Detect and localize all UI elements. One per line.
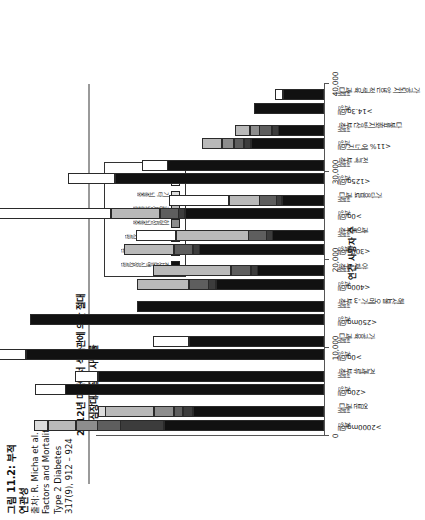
bar[interactable] — [96, 265, 324, 276]
bar[interactable] — [96, 89, 324, 100]
figure-source-line-2: Factors and Mortality — [41, 214, 52, 514]
bar-sub-label: 과잉 — [338, 349, 350, 358]
bar-segment — [48, 420, 76, 431]
bar-segment — [120, 420, 164, 431]
bar-segment — [176, 230, 249, 241]
bar[interactable] — [96, 314, 324, 325]
bar-sub-label: 과잉 — [338, 138, 350, 147]
figure-title-ko: 부적 — [6, 444, 17, 462]
bar-stack — [68, 173, 324, 184]
bar-sub-label: 과잉 — [338, 103, 350, 112]
bar-segment — [193, 406, 324, 417]
bar-sub-label: 섭취 — [338, 195, 350, 204]
bar-segment — [111, 208, 160, 219]
bar-segment — [231, 265, 251, 276]
bar-segment — [254, 103, 324, 114]
legend-items: 관상동맥심장질환고혈압성심장질환기타 심혈관질환허혈성뇌졸중출혈성뇌졸중기타 뇌… — [107, 176, 180, 271]
legend-label: 허혈성뇌졸중 — [107, 221, 169, 227]
bar-segment — [0, 349, 26, 360]
bar[interactable] — [96, 301, 324, 312]
bar-stack — [200, 138, 324, 149]
bar-stack — [142, 160, 324, 171]
legend-item[interactable]: 허혈성뇌졸중 — [107, 218, 180, 229]
bar-stack — [134, 230, 324, 241]
bar-segment — [0, 208, 111, 219]
bar-segment — [251, 138, 324, 149]
bar[interactable] — [96, 125, 324, 136]
bar[interactable] — [96, 195, 324, 206]
figure-source-line-1: 출처: R. Micha et al. — [30, 214, 41, 514]
bar-stack — [0, 208, 324, 219]
bar-stack — [32, 420, 324, 431]
bar[interactable] — [96, 138, 324, 149]
figure-subtitle-ko: 연관성 — [18, 214, 29, 514]
bar-segment — [278, 125, 324, 136]
bar-stack — [136, 279, 324, 290]
bar[interactable] — [96, 279, 324, 290]
bar-sub-label: 과잉 — [338, 279, 350, 288]
bar-segment — [26, 349, 324, 360]
bar-stack — [254, 103, 324, 114]
bar-segment — [98, 371, 324, 382]
bar[interactable] — [96, 230, 324, 241]
bar[interactable] — [96, 384, 324, 395]
bar-sub-label: 섭취 — [338, 160, 350, 169]
bar-segment — [142, 160, 168, 171]
bar-sub-label: 과잉 — [338, 314, 350, 323]
axis-tick — [324, 347, 329, 348]
figure-caption: 그림 11.2: 부적 연관성 출처: R. Micha et al. Fact… — [6, 214, 75, 514]
bar-sub-label: 과잉 — [338, 384, 350, 393]
bar-segment — [167, 160, 324, 171]
bar-sub-label: 섭취 — [338, 371, 350, 380]
bar-stack — [95, 406, 324, 417]
bar[interactable] — [96, 371, 324, 382]
bar[interactable] — [96, 406, 324, 417]
bar-segment — [136, 230, 176, 241]
bar-segment — [216, 279, 324, 290]
bar-segment — [189, 279, 209, 290]
bar[interactable] — [96, 173, 324, 184]
bar-stack — [137, 301, 324, 312]
bar-sub-label: 섭취 — [338, 406, 350, 415]
bar-sub-label: 과잉 — [338, 244, 350, 253]
bar-stack — [0, 349, 324, 360]
bar-segment — [257, 265, 324, 276]
bar[interactable] — [96, 349, 324, 360]
legend-swatch — [171, 219, 180, 228]
category-label: 가공되지 않은 적색육 과다 — [338, 84, 420, 93]
bar-segment — [160, 208, 179, 219]
bar-stack — [232, 125, 324, 136]
bar-sub-label: 섭취 — [338, 301, 350, 310]
bar[interactable] — [96, 208, 324, 219]
bar[interactable] — [96, 160, 324, 171]
bar[interactable] — [96, 103, 324, 114]
bar-segment — [153, 336, 189, 347]
axis-tick — [324, 83, 329, 84]
bar-sub-label: 섭취 — [338, 125, 350, 134]
bar-segment — [35, 384, 66, 395]
bar-segment — [137, 301, 324, 312]
bar-stack — [167, 195, 324, 206]
category-labels: 염분 과다>2000mg/일과잉섭취견과류 부족<20g/일과잉섭취가공육 과다… — [338, 0, 425, 520]
bar-segment — [282, 195, 324, 206]
bar-segment — [164, 420, 324, 431]
bar-segment — [154, 406, 174, 417]
bar-segment — [259, 125, 272, 136]
bar-sub-label: 섭취 — [338, 230, 350, 239]
bar-stack — [122, 244, 324, 255]
bar-segment — [222, 138, 234, 149]
bar-segment — [34, 420, 48, 431]
bar-segment — [189, 336, 325, 347]
figure-source-line-3: Type 2 Diabetes — [53, 214, 64, 514]
value-axis-line — [324, 84, 325, 436]
bar[interactable] — [96, 420, 324, 431]
bar-sub-label: 섭취 — [338, 89, 350, 98]
bar-segment — [105, 406, 154, 417]
bar-stack — [275, 89, 324, 100]
bar-segment — [174, 244, 193, 255]
bar-stack — [152, 265, 324, 276]
bar[interactable] — [96, 336, 324, 347]
bar[interactable] — [96, 244, 324, 255]
bar-segment — [124, 244, 174, 255]
